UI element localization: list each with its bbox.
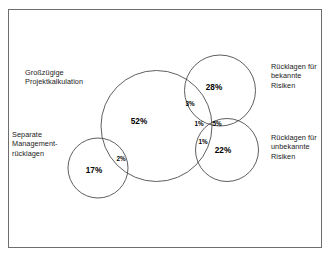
value-unknown-only: 22% <box>211 146 235 155</box>
value-generous-only: 52% <box>125 117 153 126</box>
value-generous-separate-overlap: 2% <box>114 155 128 162</box>
label-reserves-known-risks: Rücklagen für bekannte Risiken <box>271 62 333 90</box>
value-generous-known-overlap: 3% <box>183 100 197 107</box>
value-known-unknown-overlap: 5% <box>210 120 224 127</box>
label-separate-management-reserve: Separate Management- rücklagen <box>12 130 102 158</box>
diagram-page: Großzügige Projektkalkulation Separate M… <box>0 0 335 264</box>
value-known-only: 28% <box>202 83 226 92</box>
value-generous-known-unknown-overlap: 1% <box>192 120 206 127</box>
value-separate-only: 17% <box>82 166 106 175</box>
value-generous-unknown-overlap: 1% <box>196 138 210 145</box>
label-reserves-unknown-risks: Rücklagen für unbekannte Risiken <box>271 133 333 161</box>
label-generous-calculation: Großzügige Projektkalkulation <box>25 68 125 87</box>
